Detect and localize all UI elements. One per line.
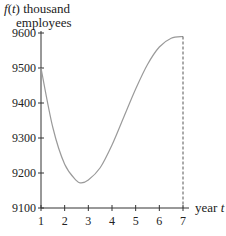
ticks: 9100920093009400950096001234567 [12,26,186,228]
x-tick-label: 3 [85,214,91,228]
axes [41,31,189,208]
x-tick-label: 5 [133,214,139,228]
y-tick-label: 9200 [12,166,36,180]
y-tick-label: 9500 [12,61,36,75]
chart-plot: 9100920093009400950096001234567 year t [0,0,226,236]
data-curve [41,37,183,184]
y-tick-label: 9100 [12,201,36,215]
x-tick-label: 4 [109,214,115,228]
x-tick-label: 7 [180,214,186,228]
y-tick-label: 9400 [12,96,36,110]
x-tick-label: 6 [156,214,162,228]
x-axis-label: year t [195,200,225,215]
y-tick-label: 9600 [12,26,36,40]
x-tick-label: 1 [38,214,44,228]
y-tick-label: 9300 [12,131,36,145]
x-tick-label: 2 [62,214,68,228]
